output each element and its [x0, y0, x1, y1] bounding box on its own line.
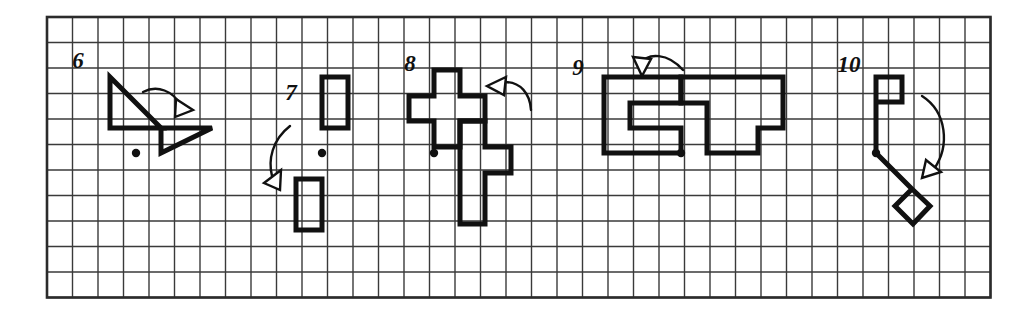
center-of-rotation-dot — [677, 149, 685, 157]
worksheet-svg: 678910 — [0, 0, 1021, 315]
center-of-rotation-dot — [132, 149, 140, 157]
problem-number-10: 10 — [838, 52, 862, 77]
problem-number-7: 7 — [285, 80, 298, 105]
worksheet-canvas: 678910 — [0, 0, 1021, 315]
problem-number-9: 9 — [572, 55, 584, 80]
center-of-rotation-dot — [318, 149, 326, 157]
center-of-rotation-dot — [872, 149, 880, 157]
center-of-rotation-dot — [430, 149, 438, 157]
problem-number-8: 8 — [404, 51, 416, 76]
problem-number-6: 6 — [72, 48, 84, 73]
